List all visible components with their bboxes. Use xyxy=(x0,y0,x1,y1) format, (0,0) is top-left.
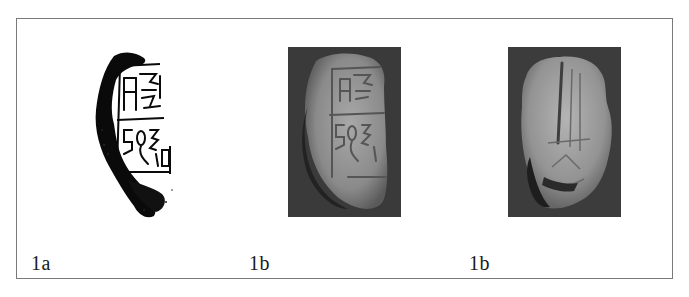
panel-label-1b-back: 1b xyxy=(469,252,490,274)
seal-rubbing-image xyxy=(84,50,179,220)
panel-label-1a: 1a xyxy=(31,252,51,274)
seal-front-photo xyxy=(288,47,401,217)
seal-back-photo xyxy=(508,47,621,217)
panel-label-1b-front: 1b xyxy=(249,252,270,274)
